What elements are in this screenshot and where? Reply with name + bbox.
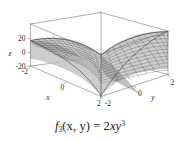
y-tick-mark-neg2: [101, 97, 103, 100]
y-tick-mark-0: [135, 86, 137, 89]
x-tick-label-0: 0: [61, 83, 65, 92]
surface-plot-canvas: 20 0 -20 z -2 0 2 x -2 0 2: [0, 0, 180, 120]
surface-plot-figure: 20 0 -20 z -2 0 2 x -2 0 2: [0, 0, 180, 142]
figure-caption: f3(x, y) = 2xy3: [0, 119, 180, 134]
caption-variables: xy: [110, 119, 121, 133]
x-tick-label-2: 2: [97, 99, 101, 108]
caption-arguments: (x, y): [62, 119, 90, 133]
x-tick-label-neg2: -2: [22, 67, 29, 76]
z-tick-label-20: 20: [18, 34, 26, 43]
y-tick-label-2: 2: [171, 78, 175, 87]
z-axis-label: z: [8, 49, 12, 58]
y-tick-label-0: 0: [138, 89, 142, 98]
z-axis: 20 0 -20 z: [8, 34, 31, 71]
caption-equals: = 2: [90, 119, 110, 133]
surface-mesh: [31, 32, 169, 97]
x-tick-mark-0: [65, 81, 67, 84]
caption-exponent: 3: [121, 119, 125, 128]
y-tick-label-neg2: -2: [105, 99, 112, 108]
x-axis-label: x: [45, 93, 50, 102]
y-tick-mark-2: [168, 75, 169, 78]
y-axis-label: y: [150, 93, 155, 102]
z-tick-label-0: 0: [22, 48, 26, 57]
